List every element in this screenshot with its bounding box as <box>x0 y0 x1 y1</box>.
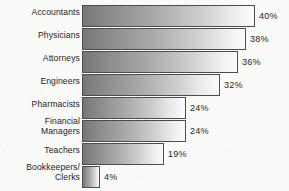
bar <box>82 143 164 165</box>
value-label: 19% <box>168 150 187 159</box>
value-label: 24% <box>190 127 209 136</box>
bar <box>82 120 186 142</box>
bar <box>82 28 246 50</box>
value-label: 36% <box>242 58 261 67</box>
category-label: Bookkeepers/ Clerks <box>2 162 80 183</box>
bar <box>82 166 100 188</box>
category-label: Pharmacists <box>2 99 80 109</box>
value-label: 24% <box>190 104 209 113</box>
plot-area: Accountants 40% Physicians 38% Attorneys… <box>0 0 289 191</box>
category-label: Financial Managers <box>2 116 80 137</box>
category-label: Teachers <box>2 145 80 155</box>
chart-row: Bookkeepers/ Clerks 4% <box>0 0 289 23</box>
value-label: 32% <box>224 81 243 90</box>
bar-chart: Accountants 40% Physicians 38% Attorneys… <box>0 0 289 191</box>
value-label: 38% <box>250 35 269 44</box>
bar <box>82 74 220 96</box>
bar <box>82 97 186 119</box>
category-label: Physicians <box>2 30 80 40</box>
value-label: 4% <box>104 173 117 182</box>
category-label: Attorneys <box>2 53 80 63</box>
category-label: Engineers <box>2 76 80 86</box>
bar <box>82 51 238 73</box>
